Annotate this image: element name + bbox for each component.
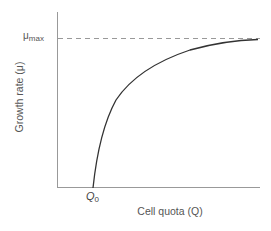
chart: μmax Growth rate (μ) Q0 Cell quota (Q): [0, 0, 271, 231]
mumax-label: μmax: [23, 30, 44, 43]
x-axis-label: Cell quota (Q): [100, 205, 240, 217]
y-axis-label: Growth rate (μ): [13, 47, 27, 147]
growth-curve: [93, 40, 258, 189]
q0-label: Q0: [86, 190, 99, 204]
